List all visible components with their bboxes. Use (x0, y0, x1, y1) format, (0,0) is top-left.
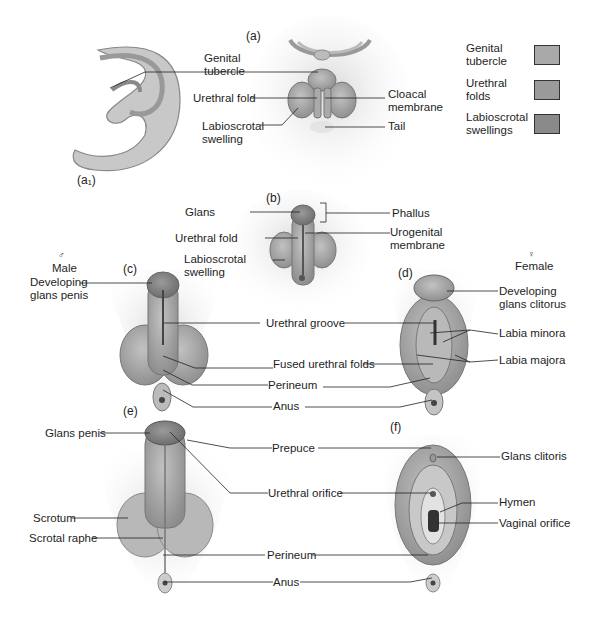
panel-label-e: (e) (123, 404, 138, 418)
legend-label-line1: Urethral (466, 77, 541, 90)
female-symbol-icon: ♀ (528, 249, 535, 259)
label-f-vaginal-orifice: Vaginal orifice (499, 517, 570, 530)
panel-e-figure (95, 421, 235, 595)
label-a-labioscrotal-2: swelling (202, 133, 243, 146)
label-e-scrotal-raphe: Scrotal raphe (29, 532, 97, 545)
label-cd-anus: Anus (273, 400, 299, 413)
embryo-sagittal-figure (73, 47, 180, 171)
label-e-scrotum: Scrotum (33, 512, 76, 525)
legend-label-line2: swellings (466, 124, 541, 137)
label-urethral-orifice: Urethral orifice (268, 487, 343, 500)
label-b-urogenital-2: membrane (390, 239, 445, 252)
legend-label-line2: tubercle (466, 55, 541, 68)
label-b-phallus: Phallus (392, 207, 430, 220)
panel-label-a1: (a₁) (77, 173, 96, 187)
legend-swatch-labioscrotal-swellings (534, 114, 560, 134)
label-cd-perineum: Perineum (268, 379, 317, 392)
label-e-glans-penis: Glans penis (45, 427, 106, 440)
panel-a-figure (250, 15, 410, 185)
label-prepuce: Prepuce (272, 442, 315, 455)
label-labia-majora: Labia majora (499, 354, 565, 367)
label-urethral-groove: Urethral groove (266, 317, 345, 330)
label-f-hymen: Hymen (499, 496, 535, 509)
panel-label-f: (f) (390, 420, 401, 434)
legend-swatch-genital-tubercle (534, 45, 560, 65)
label-a-genital-tubercle-2: tubercle (204, 65, 245, 78)
label-d-dev-glans-clitorus-1: Developing (499, 285, 557, 298)
panel-label-b: (b) (266, 191, 281, 205)
label-b-urogenital-1: Urogenital (390, 226, 442, 239)
legend-label-line1: Labioscrotal (466, 111, 541, 124)
label-labia-minora: Labia minora (499, 327, 565, 340)
female-label: Female (515, 260, 553, 273)
legend-swatch-urethral-folds (534, 80, 560, 100)
label-b-labioscrotal-1: Labioscrotal (184, 253, 246, 266)
male-label: Male (52, 262, 77, 275)
label-a-urethral-fold: Urethral fold (193, 92, 256, 105)
label-a-cloacal-2: membrane (388, 101, 443, 114)
label-f-glans-clitoris: Glans clitoris (501, 450, 567, 463)
legend-item-labioscrotal-swellings: Labioscrotalswellings (466, 111, 560, 137)
label-b-urethral-fold: Urethral fold (175, 232, 238, 245)
label-b-glans: Glans (185, 206, 215, 219)
label-d-dev-glans-clitorus-2: glans clitorus (499, 298, 566, 311)
label-ef-anus: Anus (273, 576, 299, 589)
panel-f-figure (380, 435, 485, 595)
male-symbol-icon: ♂ (58, 250, 65, 260)
label-c-dev-glans-penis-1: Developing (30, 276, 88, 289)
legend-item-urethral-folds: Urethralfolds (466, 77, 560, 103)
label-a-genital-tubercle-1: Genital (204, 52, 240, 65)
panel-d-figure (385, 270, 480, 415)
legend-item-genital-tubercle: Genitaltubercle (466, 42, 560, 68)
panel-label-c: (c) (123, 262, 137, 276)
legend-label-line1: Genital (466, 42, 541, 55)
label-a-cloacal-1: Cloacal (388, 88, 426, 101)
label-ef-perineum: Perineum (267, 549, 316, 562)
panel-c-figure (100, 270, 225, 411)
label-a-labioscrotal-1: Labioscrotal (202, 120, 264, 133)
panel-label-a: (a) (246, 29, 261, 43)
label-b-labioscrotal-2: swelling (184, 266, 225, 279)
panel-b-figure (230, 190, 370, 310)
label-fused-urethral-folds: Fused urethral folds (273, 358, 375, 371)
label-a-tail: Tail (388, 120, 405, 133)
panel-label-d: (d) (398, 266, 413, 280)
legend-label-line2: folds (466, 90, 541, 103)
label-c-dev-glans-penis-2: glans penis (30, 289, 88, 302)
